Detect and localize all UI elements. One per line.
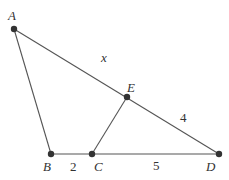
point-B <box>48 151 54 157</box>
point-label-C: C <box>94 159 103 174</box>
point-C <box>89 151 95 157</box>
point-A <box>11 26 17 32</box>
length-label-CD: 5 <box>153 158 160 173</box>
point-label-A: A <box>7 8 16 23</box>
length-label-ED: 4 <box>180 110 187 125</box>
geometry-diagram: ABCDEx425 <box>0 0 229 180</box>
point-label-D: D <box>205 159 216 174</box>
length-label-AE: x <box>100 50 107 65</box>
segment-AD <box>14 29 219 154</box>
point-D <box>216 151 222 157</box>
segments <box>14 29 219 154</box>
length-label-BC: 2 <box>70 159 77 174</box>
point-label-E: E <box>126 80 135 95</box>
diagram-canvas: ABCDEx425 <box>0 0 229 180</box>
labels: ABCDEx425 <box>7 8 216 174</box>
segment-CE <box>92 97 127 154</box>
point-label-B: B <box>43 159 51 174</box>
